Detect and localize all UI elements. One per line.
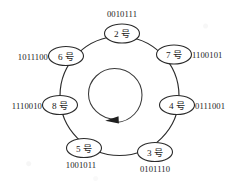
node-3[interactable]: 3 号: [138, 143, 173, 162]
rotation-arrowhead: [105, 116, 119, 123]
node-6-label: 6 号: [58, 52, 74, 62]
node-7-label: 7 号: [166, 50, 182, 60]
node-7[interactable]: 7 号: [157, 45, 192, 64]
node-4-code: 0111001: [195, 101, 225, 111]
node-5-label: 5 号: [76, 144, 92, 154]
node-7-code: 1100101: [192, 50, 222, 60]
node-3-code: 0101110: [140, 164, 170, 174]
rotation-spiral: [89, 69, 143, 123]
node-8[interactable]: 8 号: [43, 96, 78, 115]
node-4-label: 4 号: [169, 101, 185, 111]
node-5-code: 1001011: [66, 160, 96, 170]
node-8-label: 8 号: [52, 101, 68, 111]
node-2[interactable]: 2 号: [105, 24, 140, 43]
node-5[interactable]: 5 号: [67, 139, 102, 158]
node-2-label: 2 号: [114, 29, 130, 39]
diagram-canvas: 2 号 0010111 7 号 1100101 4 号 0111001 3 号 …: [0, 0, 239, 186]
node-6-code: 1011100: [18, 52, 48, 62]
node-4[interactable]: 4 号: [160, 96, 195, 115]
ring-topology-figure: 2 号 0010111 7 号 1100101 4 号 0111001 3 号 …: [0, 0, 239, 186]
node-6[interactable]: 6 号: [49, 47, 84, 66]
node-3-label: 3 号: [147, 148, 163, 158]
node-2-code: 0010111: [107, 9, 137, 19]
node-8-code: 1110010: [12, 101, 42, 111]
